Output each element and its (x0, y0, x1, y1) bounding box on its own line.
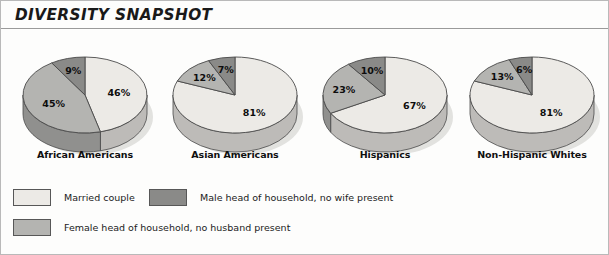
chart-legend: Married coupleMale head of household, no… (1, 189, 608, 249)
legend-swatch-male-head (149, 189, 187, 206)
pie-cell: 81%13%6%Non-Hispanic Whites (456, 31, 608, 171)
pie-slice-value: 81% (243, 107, 266, 118)
pie-cell: 81%12%7%Asian Americans (159, 31, 311, 171)
title-divider (1, 28, 608, 29)
legend-item[interactable]: Female head of household, no husband pre… (13, 219, 290, 236)
legend-item[interactable]: Married couple (13, 189, 135, 206)
legend-item[interactable]: Male head of household, no wife present (149, 189, 393, 206)
legend-row-primary: Married coupleMale head of household, no… (1, 189, 608, 213)
pie-slice-value: 67% (403, 100, 426, 111)
legend-swatch-married (13, 189, 51, 206)
legend-label: Male head of household, no wife present (200, 192, 393, 203)
legend-swatch-female-head (13, 219, 51, 236)
pie-category-label: Asian Americans (159, 149, 311, 160)
page-title: DIVERSITY SNAPSHOT (15, 5, 212, 24)
pie-slice-value: 6% (516, 64, 533, 75)
pie-slice-value: 10% (361, 65, 384, 76)
pie-category-label: African Americans (9, 149, 161, 160)
pie-slice-value: 46% (107, 87, 130, 98)
pie-slice-value: 7% (218, 64, 235, 75)
legend-label: Female head of household, no husband pre… (64, 222, 290, 233)
pie-category-label: Non-Hispanic Whites (456, 149, 608, 160)
legend-label: Married couple (64, 192, 135, 203)
legend-row-secondary: Female head of household, no husband pre… (1, 219, 608, 243)
pie-slice-value: 13% (491, 71, 514, 82)
pie-chart-row: 46%45%9%African Americans81%12%7%Asian A… (1, 31, 608, 171)
chart-page: DIVERSITY SNAPSHOT 46%45%9%African Ameri… (0, 0, 609, 255)
pie-slice-value: 81% (540, 107, 563, 118)
pie-slice-value: 9% (65, 65, 82, 76)
pie-cell: 67%23%10%Hispanics (309, 31, 461, 171)
pie-cell: 46%45%9%African Americans (9, 31, 161, 171)
pie-category-label: Hispanics (309, 149, 461, 160)
pie-slice-value: 12% (193, 72, 216, 83)
pie-slice-value: 45% (42, 98, 65, 109)
pie-slice-value: 23% (333, 84, 356, 95)
